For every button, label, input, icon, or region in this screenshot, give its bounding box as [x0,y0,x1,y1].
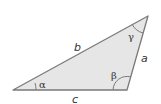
angle-label-alpha: α [39,79,46,90]
side-label-b: b [74,41,81,54]
triangle-diagram: b a c α β γ [0,0,161,104]
side-label-c: c [72,93,78,104]
angle-label-gamma: γ [128,31,134,42]
angle-label-beta: β [111,70,117,81]
side-label-a: a [141,52,148,65]
